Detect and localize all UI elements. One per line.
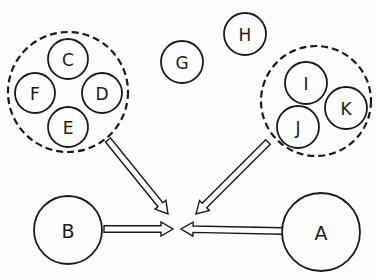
diagram-svg: CFDEGHIKJBA bbox=[0, 0, 377, 280]
node-label: H bbox=[239, 25, 252, 45]
node-g: G bbox=[161, 41, 203, 83]
node-label: F bbox=[30, 84, 40, 104]
node-e: E bbox=[48, 107, 88, 147]
node-label: I bbox=[303, 74, 308, 94]
node-i: I bbox=[285, 62, 327, 104]
node-label: B bbox=[61, 220, 74, 242]
node-label: E bbox=[63, 118, 74, 138]
node-d: D bbox=[82, 73, 122, 113]
node-a: A bbox=[282, 193, 360, 271]
node-c: C bbox=[48, 39, 88, 79]
arrow-b-to-center bbox=[104, 222, 173, 236]
arrow-left-group-to-center bbox=[106, 138, 169, 214]
node-h: H bbox=[224, 13, 266, 55]
node-j: J bbox=[277, 106, 319, 148]
node-f: F bbox=[15, 73, 55, 113]
node-k: K bbox=[325, 87, 367, 129]
arrow-a-to-center bbox=[181, 222, 282, 236]
node-label: K bbox=[340, 99, 352, 119]
arrow-right-group-to-center bbox=[196, 140, 270, 214]
diagram-canvas: CFDEGHIKJBA bbox=[0, 0, 377, 280]
node-label: C bbox=[62, 50, 74, 70]
node-b: B bbox=[34, 196, 102, 264]
node-label: A bbox=[315, 222, 328, 244]
node-label: J bbox=[294, 118, 300, 138]
node-label: D bbox=[95, 84, 108, 104]
node-label: G bbox=[175, 53, 188, 73]
